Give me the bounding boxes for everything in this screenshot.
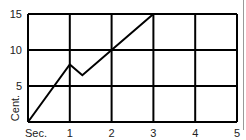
x-tick-label: 4 — [192, 127, 198, 139]
chart-grid — [28, 14, 237, 122]
x-tick-label: 5 — [234, 127, 240, 139]
y-tick-label: 10 — [10, 44, 22, 56]
divider — [243, 0, 244, 130]
y-axis-label: Cent. — [9, 95, 21, 121]
x-tick-label: Sec. — [25, 127, 47, 139]
x-tick-label: 2 — [109, 127, 115, 139]
x-tick-label: 1 — [67, 127, 73, 139]
data-line — [28, 14, 153, 122]
y-tick-label: 15 — [10, 8, 22, 20]
x-tick-label: 3 — [150, 127, 156, 139]
y-tick-label: 5 — [16, 80, 22, 92]
axis-ticks: Sec.1234551015Cent. — [9, 8, 240, 139]
line-chart: Sec.1234551015Cent. — [0, 0, 246, 140]
